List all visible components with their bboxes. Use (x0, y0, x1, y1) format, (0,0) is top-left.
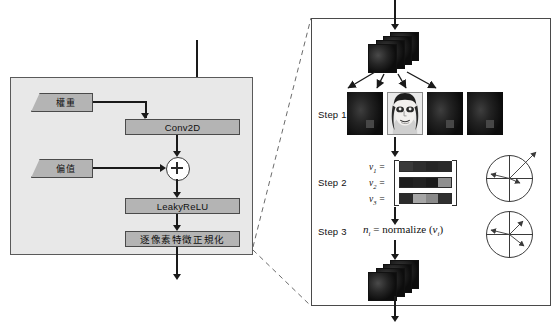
feature-map-tile (368, 272, 397, 301)
vector-cell (400, 178, 413, 187)
vector-3-label: v3 = (369, 194, 385, 206)
figure-canvas: 權重 Conv2D 偏值 + LeakyReLU 逐像素特徵正規化 (0, 0, 560, 325)
vector-3-index: 3 (373, 199, 376, 206)
vector-1-index: 1 (373, 167, 376, 174)
vector-1-equals: = (379, 162, 385, 172)
vector-2-equals: = (379, 178, 385, 188)
output-feature-map-stack (368, 260, 424, 298)
vector-cell (413, 162, 426, 171)
vector-2-label: v2 = (369, 178, 385, 190)
vector-cell (400, 162, 413, 171)
step-3-label: Step 3 (318, 226, 347, 237)
fanout-arrows (0, 0, 560, 325)
feature-map-image-2 (387, 92, 423, 135)
vector-2-index: 2 (373, 183, 376, 190)
formula-lhs-sub: i (369, 230, 371, 238)
vector-cell (438, 178, 451, 187)
vector-cell (413, 194, 426, 203)
detail-output-arrowhead (391, 316, 399, 322)
vector-3-cells (399, 193, 452, 204)
step-2-label: Step 2 (318, 177, 347, 188)
formula-function: normalize (382, 223, 426, 235)
matrix-bracket-right (452, 160, 457, 206)
vector-cell (426, 178, 439, 187)
vector-cell (413, 178, 426, 187)
feature-map-image-3 (427, 92, 463, 135)
vector-cell (426, 162, 439, 171)
formula-arg-sub: i (437, 230, 439, 238)
unit-circle-after: normalized unit vectors (486, 211, 533, 258)
vector-2-cells (399, 177, 452, 188)
unit-circle-before: unnormalized vectors (486, 155, 533, 202)
vector-cell (438, 162, 451, 171)
vector-cell (438, 194, 451, 203)
step-1-label: Step 1 (318, 109, 347, 120)
vector-cell (426, 194, 439, 203)
vector-cell (400, 194, 413, 203)
formula-equals: = (373, 223, 379, 235)
vector-3-equals: = (379, 194, 385, 204)
feature-map-image-4 (467, 92, 503, 135)
vector-1-label: v1 = (369, 162, 385, 174)
step1-to-step2-arrowhead (391, 151, 399, 157)
normalize-formula: ni = normalize (vi) (363, 223, 443, 238)
feature-map-image-1 (347, 92, 383, 135)
vector-1-cells (399, 161, 452, 172)
